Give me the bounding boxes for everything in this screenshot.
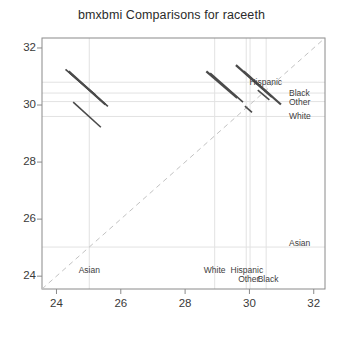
x-axis-tick-label: 30 bbox=[229, 297, 269, 309]
chart-figure: bmxbmi Comparisons for raceeth 242628303… bbox=[0, 0, 343, 347]
y-axis-tick-label: 28 bbox=[6, 155, 36, 167]
y-axis-tick-label: 24 bbox=[6, 269, 36, 281]
group-label-right-other: Other bbox=[289, 97, 329, 107]
group-label-bottom-black: Black bbox=[247, 274, 289, 284]
group-label-right-white: White bbox=[289, 111, 329, 121]
comparison-segment[interactable] bbox=[73, 102, 101, 127]
x-axis-tick-label: 32 bbox=[294, 297, 334, 309]
x-axis-tick-label: 26 bbox=[101, 297, 141, 309]
plot-canvas bbox=[0, 0, 343, 347]
group-label-right-hispanic: Hispanic bbox=[249, 77, 289, 87]
y-axis-tick-label: 30 bbox=[6, 98, 36, 110]
group-label-bottom-asian: Asian bbox=[68, 265, 110, 275]
group-label-right-asian: Asian bbox=[289, 238, 329, 248]
y-axis-tick-label: 32 bbox=[6, 41, 36, 53]
x-axis-tick-label: 28 bbox=[165, 297, 205, 309]
y-axis-tick-label: 26 bbox=[6, 212, 36, 224]
x-axis-tick-label: 24 bbox=[36, 297, 76, 309]
identity-line bbox=[42, 38, 325, 289]
